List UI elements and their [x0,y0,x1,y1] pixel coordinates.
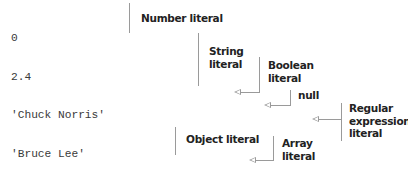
array-connector-hline [255,160,274,161]
array-connector-vline [273,136,274,161]
number-literal-label: Number literal [141,12,223,25]
null-connector-vline [290,90,291,106]
regex-literal-label: Regular expression literal [349,102,408,140]
string-literal-label: String literal [209,45,244,70]
code-listing: 0 2.4 'Chuck Norris' 'Bruce Lee' 'Espres… [11,6,186,170]
null-connector-hline [270,105,291,106]
boolean-literal-label: Boolean literal [268,59,314,84]
regex-arrow-icon [312,116,319,122]
code-line-number-decimal: 2.4 [11,71,186,84]
object-bracket-line [175,127,176,155]
null-label: null [298,89,319,102]
code-line-string-1: 'Chuck Norris' [11,109,186,122]
boolean-connector-vline [259,57,260,93]
code-line-number-zero: 0 [11,32,186,45]
array-literal-label: Array literal [282,137,315,162]
boolean-connector-hline [240,92,260,93]
regex-connector-hline [318,119,341,120]
code-line-string-2: 'Bruce Lee' [11,148,186,161]
regex-connector-vline [341,103,342,141]
object-literal-label: Object literal [186,133,259,146]
string-bracket-line [198,33,199,86]
null-arrow-icon [264,102,271,108]
boolean-arrow-icon [234,89,241,95]
number-bracket-line [129,3,130,33]
array-arrow-icon [249,157,256,163]
